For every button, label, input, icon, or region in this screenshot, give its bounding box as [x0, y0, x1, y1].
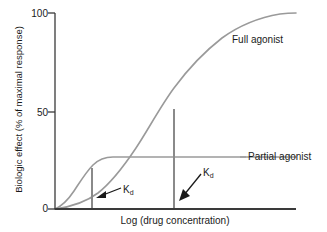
series-label-partial-agonist: Partial agonist	[248, 152, 311, 162]
kd-arrow-partial-agonist	[96, 188, 121, 198]
annotation-label-kd-partial-agonist: Kd	[123, 185, 134, 195]
series-label-full-agonist: Full agonist	[232, 35, 283, 45]
y-tick-label-0: 0	[24, 203, 48, 214]
kd-base-2: K	[203, 167, 210, 178]
kd-arrow-full-agonist	[179, 174, 201, 201]
x-axis-title: Log (drug concentration)	[55, 215, 295, 226]
y-tick-label-100: 100	[24, 8, 48, 19]
kd-subscript-1: d	[130, 189, 134, 196]
dose-response-chart: Biologic effect (% of maximal response) …	[0, 0, 327, 232]
kd-base-1: K	[123, 184, 130, 195]
kd-subscript-2: d	[210, 172, 214, 179]
y-tick-label-50: 50	[24, 107, 48, 118]
y-axis-title: Biologic effect (% of maximal response)	[13, 10, 24, 210]
annotation-label-kd-full-agonist: Kd	[203, 168, 214, 178]
